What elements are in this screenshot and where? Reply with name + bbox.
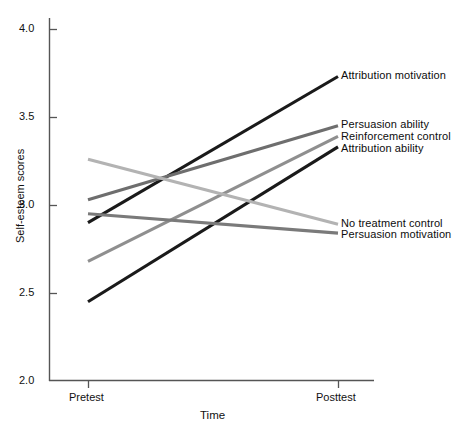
y-tick-label-2: 2.0: [19, 374, 34, 386]
series-line-persuasion-motivation: [88, 214, 338, 233]
series-label-persuasion-ability: Persuasion ability: [341, 118, 429, 130]
series-label-attribution-motivation: Attribution motivation: [341, 69, 446, 81]
x-category-posttest: Posttest: [316, 391, 356, 403]
y-tick-label-4: 4.0: [19, 22, 34, 34]
y-axis-title: Self-esteem scores: [14, 149, 26, 243]
series-line-reinforcement-control: [88, 136, 338, 261]
y-axis-ticks: [50, 30, 58, 294]
x-category-pretest: Pretest: [69, 391, 104, 403]
x-axis-title: Time: [200, 409, 225, 421]
y-tick-label-3_5: 3.5: [19, 110, 34, 122]
series-label-persuasion-motivation: Persuasion motivation: [341, 228, 451, 240]
series-line-persuasion-ability: [88, 126, 338, 200]
series-line-attribution-motivation: [88, 77, 338, 223]
chart-figure: 4.0 3.5 3.0 2.5 2.0 Self-esteem scores P…: [0, 0, 466, 423]
series-label-attribution-ability: Attribution ability: [341, 142, 424, 154]
chart-plot-area: [0, 0, 466, 423]
x-axis-ticks: [89, 381, 339, 388]
series-lines: [88, 77, 338, 302]
y-tick-label-2_5: 2.5: [19, 286, 34, 298]
series-label-reinforcement-control: Reinforcement control: [341, 130, 451, 142]
